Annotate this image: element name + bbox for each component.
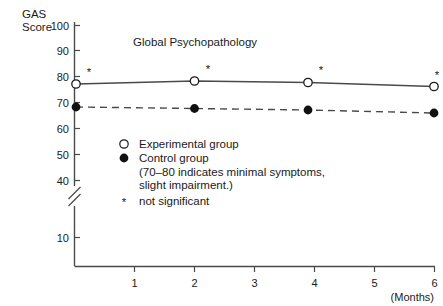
legend-note-line2: slight impairment.) — [139, 179, 233, 191]
x-axis-unit-label: (Months) — [391, 291, 434, 303]
star-annotation-0: * — [87, 66, 92, 78]
legend-note-line1: (70–80 indicates minimal symptoms, — [139, 166, 325, 178]
y-tick-label-40: 40 — [57, 175, 69, 187]
chart-container: 100 90 80 70 60 50 40 10 GAS Score 1 2 3… — [0, 0, 443, 306]
y-axis-break-icon — [69, 186, 81, 206]
legend-label-experimental: Experimental group — [139, 138, 239, 150]
y-tick-label-100: 100 — [51, 20, 69, 32]
legend-label-control: Control group — [139, 152, 209, 164]
significance-star-annotations: * * * * — [87, 63, 440, 81]
series-experimental-markers — [72, 77, 438, 91]
star-annotation-1: * — [206, 63, 211, 75]
y-tick-label-70: 70 — [57, 97, 69, 109]
x-axis-ticks — [135, 267, 435, 273]
legend-marker-control — [120, 154, 129, 163]
series-experimental-line — [76, 81, 434, 87]
y-tick-label-90: 90 — [57, 45, 69, 57]
star-annotation-2: * — [319, 64, 324, 76]
x-tick-label-5: 5 — [371, 277, 377, 289]
x-tick-label-1: 1 — [131, 277, 137, 289]
gas-score-line-chart: 100 90 80 70 60 50 40 10 GAS Score 1 2 3… — [0, 0, 443, 306]
y-tick-label-50: 50 — [57, 149, 69, 161]
x-tick-label-6: 6 — [431, 277, 437, 289]
y-axis-title-line2: Score — [22, 21, 52, 33]
legend-marker-star-icon: * — [122, 196, 127, 208]
star-annotation-3: * — [435, 69, 440, 81]
series-control-line — [76, 107, 434, 113]
y-tick-label-80: 80 — [57, 71, 69, 83]
legend-marker-experimental — [120, 140, 128, 148]
x-tick-label-2: 2 — [191, 277, 197, 289]
plot-title: Global Psychopathology — [133, 36, 257, 48]
legend-label-not-significant: not significant — [139, 195, 210, 207]
series-control-markers — [72, 103, 439, 118]
x-tick-label-4: 4 — [311, 277, 317, 289]
y-tick-label-10: 10 — [57, 232, 69, 244]
x-tick-label-3: 3 — [251, 277, 257, 289]
y-tick-label-60: 60 — [57, 123, 69, 135]
chart-legend: Experimental group Control group (70–80 … — [120, 138, 325, 208]
y-axis-title-line1: GAS — [22, 8, 47, 20]
